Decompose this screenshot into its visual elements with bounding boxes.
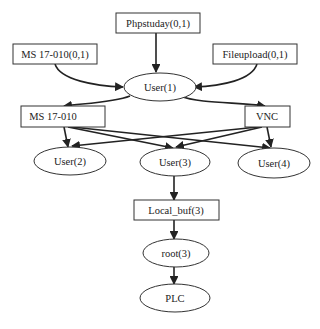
- node-label: PLC: [165, 293, 184, 304]
- node-label: Fileupload(0,1): [222, 49, 288, 61]
- edge-vnc-user4: [267, 127, 271, 147]
- node-ms17010-src: MS 17-010(0,1): [13, 44, 97, 64]
- node-label: root(3): [161, 248, 191, 260]
- edge-user1-ms17010: [64, 96, 130, 106]
- node-user4: User(4): [238, 148, 310, 178]
- edge-ms17010-user4: [72, 127, 270, 148]
- node-user3: User(3): [140, 148, 210, 176]
- attack-graph-diagram: Phpstuday(0,1) MS 17-010(0,1) Fileupload…: [0, 0, 320, 329]
- node-label: MS 17-010: [29, 111, 77, 122]
- node-label: User(3): [159, 157, 192, 169]
- node-fileupload: Fileupload(0,1): [213, 44, 297, 64]
- node-label: MS 17-010(0,1): [21, 49, 89, 61]
- node-label: User(4): [258, 158, 291, 170]
- node-root3: root(3): [143, 239, 209, 267]
- node-local-buf: Local_buf(3): [134, 200, 219, 220]
- node-label: User(1): [144, 82, 177, 94]
- node-ms17010: MS 17-010: [21, 106, 105, 127]
- edge-ms17010src-user1: [55, 64, 123, 87]
- edge-vnc-user3: [176, 127, 262, 147]
- node-user2: User(2): [34, 147, 106, 175]
- node-label: Local_buf(3): [148, 205, 204, 217]
- node-phpstuday: Phpstuday(0,1): [116, 13, 200, 33]
- node-plc: PLC: [140, 284, 210, 312]
- node-label: User(2): [54, 156, 87, 168]
- edge-user1-vnc: [180, 96, 265, 106]
- node-user1: User(1): [124, 73, 196, 101]
- node-label: VNC: [256, 111, 278, 122]
- node-label: Phpstuday(0,1): [126, 18, 190, 30]
- edge-ms17010-user2: [64, 127, 68, 147]
- node-vnc: VNC: [245, 106, 290, 127]
- edge-fileupload-user1: [194, 64, 257, 87]
